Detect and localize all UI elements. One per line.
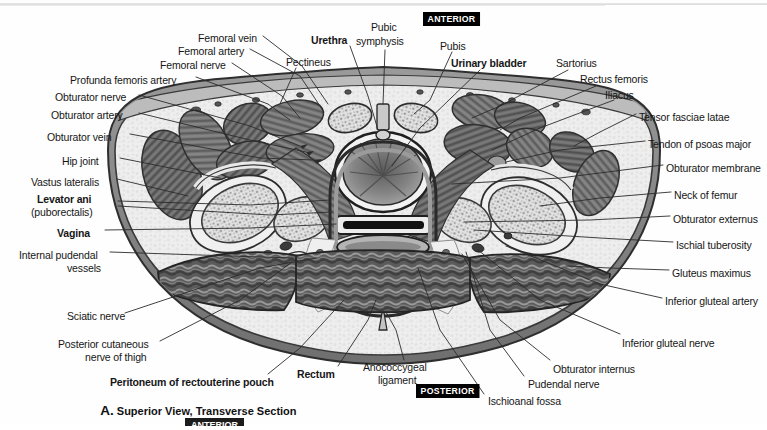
vagina [336, 216, 431, 234]
label-left-14: Sciatic nerve [67, 311, 125, 323]
label-left-12: Internal pudendal [19, 250, 98, 262]
label-left-9: Levator ani [37, 194, 91, 206]
label-right-0: Tensor fasciae latae [639, 112, 729, 124]
label-left-0: Femoral vein [198, 33, 257, 45]
orientation-badge-anterior: ANTERIOR [423, 12, 480, 26]
urinary-bladder [335, 132, 431, 212]
label-top-6: Sartorius [556, 58, 597, 70]
label-left-2: Femoral nerve [160, 60, 226, 72]
label-right-5: Ischial tuberosity [676, 240, 752, 252]
label-left-3: Profunda femoris artery [70, 75, 176, 87]
label-bottom-2: Anococcygeal [363, 362, 427, 374]
urethra [376, 130, 390, 140]
pubic-symphysis [377, 104, 389, 130]
clipped-orientation-badge: ANTERIOR [185, 418, 244, 426]
label-bottom-4: Obturator internus [553, 364, 635, 376]
label-left-16: nerve of thigh [85, 352, 147, 364]
orientation-badge-posterior: POSTERIOR [416, 384, 479, 398]
label-bottom-6: Ischioanal fossa [488, 396, 561, 408]
label-right-6: Gluteus maximus [672, 268, 751, 280]
label-bottom-1: Rectum [297, 369, 335, 381]
label-top-2: Pubic [371, 22, 397, 34]
label-bottom-5: Pudendal nerve [528, 379, 599, 391]
label-left-5: Obturator artery [51, 110, 123, 122]
label-right-3: Neck of femur [674, 190, 737, 202]
label-left-13: vessels [67, 263, 101, 275]
label-right-7: Inferior gluteal artery [665, 296, 758, 308]
label-top-3: symphysis [356, 36, 404, 48]
caption-text: Superior View, Transverse Section [114, 405, 297, 417]
label-left-1: Femoral artery [178, 46, 244, 58]
label-top-5: Urinary bladder [451, 58, 526, 70]
label-top-0: Pectineus [286, 57, 331, 69]
label-right-8: Inferior gluteal nerve [622, 338, 714, 350]
label-top-7: Rectus femoris [580, 74, 648, 86]
label-bottom-3: ligament [378, 375, 417, 387]
label-left-7: Hip joint [62, 156, 99, 168]
label-top-8: Iliacus [605, 90, 634, 102]
label-top-1: Urethra [311, 35, 347, 47]
gluteus-maximus [158, 250, 610, 312]
label-top-4: Pubis [440, 41, 466, 53]
label-left-4: Obturator nerve [55, 92, 126, 104]
label-right-1: Tendon of psoas major [648, 139, 751, 151]
label-right-2: Obturator membrane [666, 163, 761, 175]
label-left-11: Vagina [57, 228, 90, 240]
label-left-8: Vastus lateralis [31, 177, 99, 189]
label-left-10: (puborectalis) [31, 207, 93, 219]
label-bottom-0: Peritoneum of rectouterine pouch [110, 377, 274, 389]
label-right-4: Obturator externus [673, 214, 758, 226]
caption-letter: A. [100, 403, 114, 418]
label-left-6: Obturator vein [47, 132, 111, 144]
label-left-15: Posterior cutaneous [58, 339, 149, 351]
